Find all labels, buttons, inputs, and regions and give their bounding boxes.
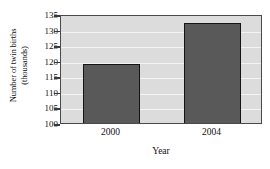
bar (184, 23, 241, 123)
x-axis-tick-label: 2004 (202, 127, 221, 138)
y-axis-title-line-1: Number of twin births (9, 28, 20, 102)
y-axis-tick-mark (54, 124, 60, 126)
twin-births-bar-chart: Number of twin births (thousands) 100105… (0, 0, 270, 169)
x-axis-title: Year (60, 146, 262, 157)
bar (83, 64, 140, 123)
plot-area (60, 15, 262, 124)
x-axis-tick-label: 2000 (101, 127, 120, 138)
